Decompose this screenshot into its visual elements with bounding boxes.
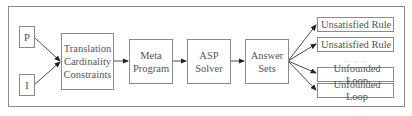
meta-program-box: Meta Program	[129, 39, 173, 84]
answer-sets-box: Answer Sets	[245, 39, 289, 84]
answer-sets-line-1: Answer	[251, 49, 284, 62]
input-i-box: I	[19, 74, 35, 96]
arrow-p-to-translation	[34, 37, 60, 61]
translation-line-3: Constraints	[64, 68, 112, 81]
arrow-to-output-4	[288, 61, 316, 90]
input-p-label: P	[24, 31, 30, 44]
meta-program-line-2: Program	[133, 62, 169, 75]
asp-solver-line-1: ASP	[199, 49, 218, 62]
arrow-to-output-2	[288, 44, 316, 61]
translation-box: Translation Cardinality Constraints	[61, 33, 114, 90]
translation-line-1: Translation	[64, 42, 111, 55]
answer-sets-line-2: Sets	[258, 62, 276, 75]
output-box-1: Unsatisfied Rule	[317, 17, 394, 32]
input-i-label: I	[25, 79, 29, 92]
translation-line-2: Cardinality	[64, 55, 111, 68]
output-label-2: Unsatisfied Rule	[321, 39, 391, 51]
meta-program-line-1: Meta	[140, 49, 162, 62]
output-box-4: Unfounded Loop	[317, 83, 394, 98]
arrow-to-output-3	[288, 61, 316, 73]
arrow-to-output-1	[288, 25, 316, 61]
output-label-4: Unfounded Loop	[321, 79, 393, 103]
input-p-box: P	[19, 26, 35, 48]
arrow-i-to-translation	[34, 62, 60, 85]
output-box-2: Unsatisfied Rule	[317, 37, 394, 52]
output-label-1: Unsatisfied Rule	[321, 19, 391, 31]
asp-solver-box: ASP Solver	[187, 39, 231, 84]
asp-solver-line-2: Solver	[195, 62, 222, 75]
